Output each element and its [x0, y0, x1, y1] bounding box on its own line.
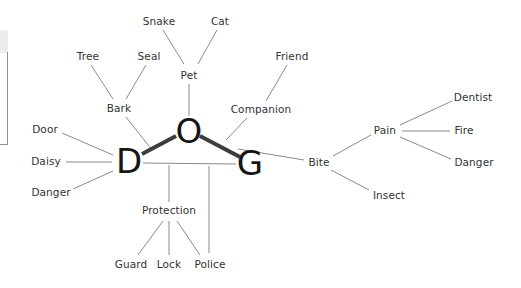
node-companion: Companion [231, 104, 292, 116]
node-protection: Protection [142, 205, 196, 217]
node-danger-right: Danger [454, 157, 493, 169]
node-daisy: Daisy [31, 156, 61, 168]
node-bark: Bark [107, 103, 131, 115]
node-seal: Seal [138, 51, 161, 63]
node-danger-left: Danger [31, 187, 70, 199]
node-layer: DOGSnakeCatTreeSealFriendPetBarkCompanio… [0, 0, 521, 288]
diagram-canvas: DOGSnakeCatTreeSealFriendPetBarkCompanio… [0, 0, 521, 288]
node-snake: Snake [143, 16, 175, 28]
node-friend: Friend [276, 51, 309, 63]
node-fire: Fire [454, 125, 473, 137]
node-pain: Pain [374, 125, 396, 137]
node-letter-o: O [176, 113, 203, 150]
node-door: Door [32, 124, 58, 136]
node-dentist: Dentist [454, 92, 493, 104]
node-letter-d: D [116, 143, 142, 180]
node-tree: Tree [77, 51, 99, 63]
node-insect: Insect [373, 190, 405, 202]
node-cat: Cat [211, 16, 229, 28]
node-police: Police [194, 259, 225, 271]
node-lock: Lock [157, 259, 181, 271]
node-bite: Bite [308, 157, 329, 169]
node-pet: Pet [181, 70, 198, 82]
node-guard: Guard [115, 259, 148, 271]
node-letter-g: G [237, 145, 263, 182]
